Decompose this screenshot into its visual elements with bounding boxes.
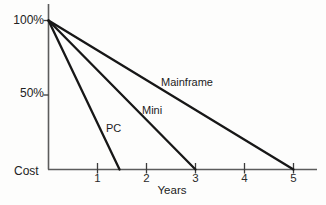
x-tick-label-4: 4 (237, 173, 253, 185)
series-line-mini (49, 21, 196, 170)
y-tick-label-100: 100% (6, 14, 44, 26)
series-label-mainframe: Mainframe (161, 77, 213, 88)
y-axis-origin-label: Cost (14, 165, 39, 177)
series-label-mini: Mini (142, 105, 162, 116)
x-tick-label-2: 2 (139, 173, 155, 185)
series-label-pc: PC (106, 123, 121, 134)
y-tick-label-50: 50% (6, 87, 44, 99)
x-axis-label: Years (146, 185, 198, 197)
chart-canvas (0, 0, 326, 205)
x-tick-label-5: 5 (286, 173, 302, 185)
x-tick-label-1: 1 (90, 173, 106, 185)
x-tick-label-3: 3 (188, 173, 204, 185)
cost-decline-chart: 100% 50% Cost Years PC Mini Mainframe 12… (0, 0, 326, 205)
